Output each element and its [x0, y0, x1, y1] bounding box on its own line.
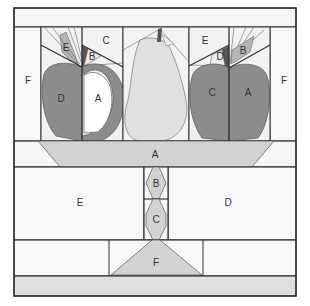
top-border-band [14, 8, 296, 27]
label-right-f: F [281, 75, 287, 86]
base-panel-d [168, 167, 296, 240]
label-apple2-b: B [240, 45, 247, 56]
label-apple1-e: E [63, 42, 70, 53]
quilt-pattern-diagram: F E C B D A E D B C A F A E D B C F [0, 0, 310, 306]
label-base-d: D [224, 197, 231, 208]
label-apple2-e: E [202, 35, 209, 46]
label-apple1-a: A [95, 93, 102, 104]
bottom-border-band [14, 276, 296, 296]
label-apple1-c: C [102, 35, 109, 46]
label-apple1-d: D [57, 93, 64, 104]
label-left-f: F [25, 75, 31, 86]
label-apple2-d: D [216, 51, 223, 62]
label-stem-b: B [153, 178, 160, 189]
label-apple1-b: B [89, 51, 96, 62]
pear-block [123, 27, 189, 141]
label-stem-c: C [152, 214, 159, 225]
label-base-e: E [77, 197, 84, 208]
label-apple2-a: A [245, 87, 252, 98]
label-bowl-a: A [152, 149, 159, 160]
label-apple2-c: C [208, 87, 215, 98]
apple-block-left [41, 27, 124, 141]
label-foot-f: F [153, 257, 159, 268]
